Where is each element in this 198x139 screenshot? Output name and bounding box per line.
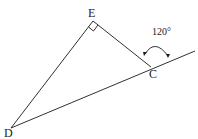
- segment-de: [11, 21, 93, 128]
- arrowhead-left-icon: [143, 52, 147, 56]
- angle-label: 120°: [152, 27, 171, 37]
- point-label-d: D: [4, 127, 13, 139]
- arrowhead-right-icon: [166, 54, 170, 58]
- point-label-c: C: [149, 68, 157, 80]
- right-angle-marker-icon: [89, 25, 99, 31]
- line-dc-extended: [11, 51, 195, 128]
- triangle-diagram: [0, 0, 198, 139]
- point-label-e: E: [88, 7, 95, 19]
- angle-arc-icon: [145, 46, 168, 56]
- segment-ec: [93, 21, 151, 67]
